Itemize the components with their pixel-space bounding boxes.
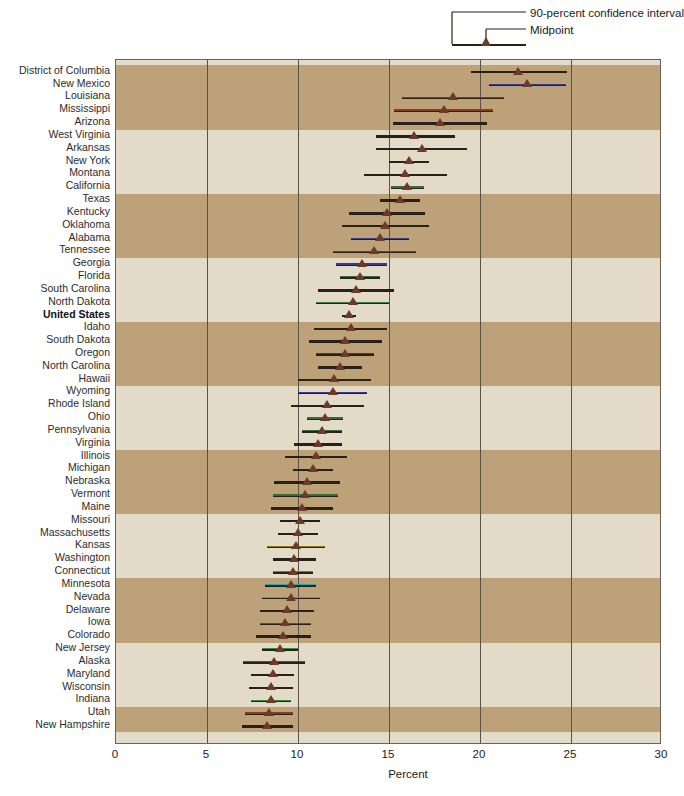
x-tick-label: 0 (112, 748, 118, 760)
midpoint-marker (375, 233, 385, 241)
category-label: Michigan (0, 462, 110, 473)
midpoint-marker (311, 451, 321, 459)
data-row (116, 681, 660, 694)
midpoint-marker (448, 92, 458, 100)
category-label: California (0, 180, 110, 191)
midpoint-marker (262, 721, 272, 729)
data-row (116, 514, 660, 527)
data-row (116, 65, 660, 78)
category-label: Illinois (0, 450, 110, 461)
midpoint-marker (344, 310, 354, 318)
midpoint-marker (317, 426, 327, 434)
category-label: Kentucky (0, 206, 110, 217)
category-label: Rhode Island (0, 398, 110, 409)
data-row (116, 168, 660, 181)
midpoint-marker (382, 208, 392, 216)
category-label: United States (0, 309, 110, 320)
midpoint-marker (300, 490, 310, 498)
category-label: Arizona (0, 116, 110, 127)
data-row (116, 206, 660, 219)
category-label: Tennessee (0, 244, 110, 255)
data-row (116, 720, 660, 733)
x-tick-label: 20 (473, 748, 486, 760)
chart-legend: 90-percent confidence interval Midpoint (434, 4, 672, 54)
data-row (116, 181, 660, 194)
midpoint-marker (522, 79, 532, 87)
data-row (116, 578, 660, 591)
midpoint-marker (266, 682, 276, 690)
data-row (116, 335, 660, 348)
data-row (116, 258, 660, 271)
category-label: Ohio (0, 411, 110, 422)
midpoint-marker (275, 644, 285, 652)
category-label: Idaho (0, 321, 110, 332)
value-axis-ticks: 051015202530 (0, 748, 672, 764)
data-row (116, 117, 660, 130)
category-label: Maine (0, 501, 110, 512)
category-label: Connecticut (0, 565, 110, 576)
category-label: Maryland (0, 668, 110, 679)
data-row (116, 566, 660, 579)
midpoint-marker (346, 323, 356, 331)
data-row (116, 668, 660, 681)
midpoint-marker (417, 144, 427, 152)
midpoint-marker (340, 349, 350, 357)
data-row (116, 412, 660, 425)
category-label: Hawaii (0, 373, 110, 384)
midpoint-marker (291, 541, 301, 549)
data-row (116, 309, 660, 322)
data-row (116, 553, 660, 566)
category-label: Colorado (0, 629, 110, 640)
midpoint-marker (395, 195, 405, 203)
category-label: Louisiana (0, 90, 110, 101)
data-row (116, 142, 660, 155)
midpoint-marker (409, 131, 419, 139)
category-label: South Carolina (0, 283, 110, 294)
category-label: Delaware (0, 604, 110, 615)
midpoint-marker (288, 567, 298, 575)
category-label: Texas (0, 193, 110, 204)
data-rows (116, 60, 660, 743)
data-row (116, 373, 660, 386)
midpoint-marker (329, 374, 339, 382)
midpoint-marker (280, 618, 290, 626)
data-row (116, 78, 660, 91)
midpoint-marker (439, 105, 449, 113)
midpoint-marker (313, 439, 323, 447)
data-row (116, 283, 660, 296)
x-tick-label: 25 (564, 748, 577, 760)
category-label: North Dakota (0, 296, 110, 307)
data-row (116, 425, 660, 438)
data-row (116, 245, 660, 258)
category-label: South Dakota (0, 334, 110, 345)
midpoint-marker (400, 169, 410, 177)
category-label: West Virginia (0, 129, 110, 140)
data-row (116, 399, 660, 412)
category-label: Montana (0, 167, 110, 178)
category-label: Iowa (0, 616, 110, 627)
x-tick-label: 5 (203, 748, 209, 760)
category-label: Nevada (0, 591, 110, 602)
data-row (116, 194, 660, 207)
data-row (116, 489, 660, 502)
category-label: Minnesota (0, 578, 110, 589)
category-label: Indiana (0, 693, 110, 704)
midpoint-marker (286, 593, 296, 601)
midpoint-marker (348, 297, 358, 305)
midpoint-marker (295, 516, 305, 524)
midpoint-marker (402, 182, 412, 190)
data-row (116, 386, 660, 399)
category-label: Washington (0, 552, 110, 563)
data-row (116, 604, 660, 617)
midpoint-marker (266, 695, 276, 703)
midpoint-marker (282, 605, 292, 613)
midpoint-marker (369, 246, 379, 254)
midpoint-marker (293, 528, 303, 536)
x-tick-label: 10 (291, 748, 304, 760)
category-label: Missouri (0, 514, 110, 525)
midpoint-marker (513, 67, 523, 75)
data-row (116, 104, 660, 117)
midpoint-marker (357, 259, 367, 267)
midpoint-marker (308, 464, 318, 472)
